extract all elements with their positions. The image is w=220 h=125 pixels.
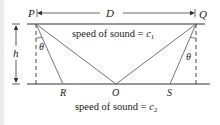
theta-right-arc: [190, 37, 196, 38]
label-o: O: [112, 87, 119, 98]
ray-q-to-s: [170, 24, 196, 84]
label-r: R: [59, 87, 66, 98]
theta-left-arc: [36, 37, 42, 38]
sound-reflection-diagram: P Q D h θ θ R O S speed of sound = c1 sp…: [0, 0, 220, 125]
label-p: P: [27, 7, 35, 19]
label-theta-right: θ: [186, 51, 191, 62]
upper-medium-label: speed of sound = c1: [72, 28, 155, 41]
label-theta-left: θ: [39, 41, 44, 52]
ray-p-to-r: [36, 24, 63, 84]
label-s: S: [167, 87, 172, 98]
lower-medium-label: speed of sound = c2: [75, 101, 158, 114]
label-d: D: [105, 7, 114, 19]
label-q: Q: [199, 8, 207, 20]
label-h: h: [13, 47, 19, 59]
